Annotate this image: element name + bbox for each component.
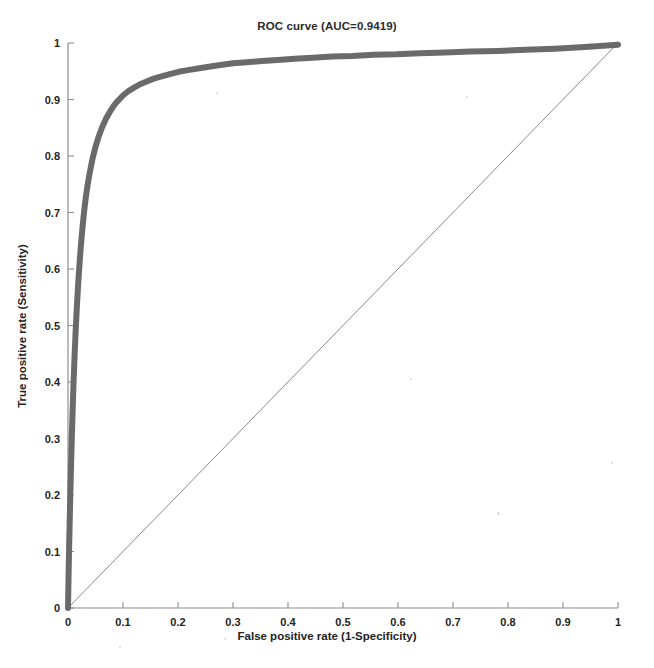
y-tick-label: 0 (34, 602, 60, 614)
x-tick-label: 0.9 (555, 616, 570, 628)
y-tick-label: 0.2 (34, 489, 60, 501)
y-tick-label: 1 (34, 37, 60, 49)
y-tick-label: 0.5 (34, 320, 60, 332)
y-tick-label: 0.9 (34, 94, 60, 106)
x-tick-label: 0.6 (390, 616, 405, 628)
chance-diagonal-line (68, 43, 618, 608)
x-tick-label: 0.4 (280, 616, 295, 628)
x-tick-label: 0.2 (170, 616, 185, 628)
scan-speck (119, 646, 121, 648)
scan-speck (224, 638, 226, 640)
x-tick-label: 0.1 (115, 616, 130, 628)
x-tick-label: 1 (615, 616, 621, 628)
roc-curve-figure: ROC curve (AUC=0.9419) 00.10.20.30.40.50… (0, 0, 654, 668)
plot-canvas (0, 0, 654, 668)
y-tick-label: 0.1 (34, 546, 60, 558)
scan-speck (611, 462, 613, 464)
y-tick-label: 0.4 (34, 376, 60, 388)
scan-speck (497, 512, 500, 515)
y-tick-label: 0.3 (34, 433, 60, 445)
x-tick-label: 0.8 (500, 616, 515, 628)
x-axis-ticks (68, 602, 618, 608)
x-tick-label: 0 (65, 616, 71, 628)
y-tick-label: 0.6 (34, 263, 60, 275)
scan-speck (216, 92, 218, 94)
x-tick-label: 0.7 (445, 616, 460, 628)
x-axis-label: False positive rate (1-Specificity) (0, 630, 654, 642)
y-tick-label: 0.8 (34, 150, 60, 162)
y-axis-label: True positive rate (Sensitivity) (16, 244, 28, 408)
x-tick-label: 0.3 (225, 616, 240, 628)
scan-speck (410, 378, 412, 380)
y-tick-label: 0.7 (34, 207, 60, 219)
x-tick-label: 0.5 (335, 616, 350, 628)
scan-speck (466, 96, 468, 98)
